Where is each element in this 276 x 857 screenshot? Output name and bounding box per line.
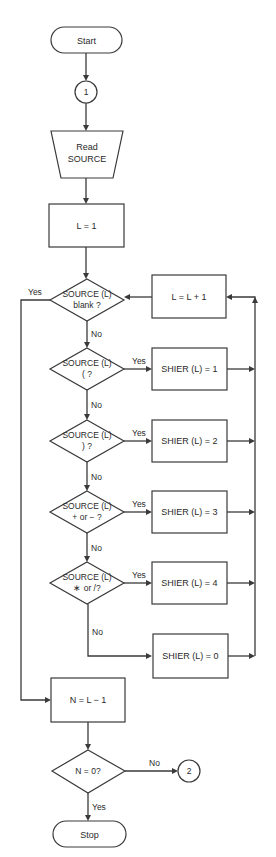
decision-plus-minus-line1: SOURCE (L) xyxy=(62,501,111,511)
init-label: L = 1 xyxy=(77,221,97,231)
decision-blank: SOURCE (L) blank ? xyxy=(50,279,124,321)
no-label-4: No xyxy=(91,543,102,553)
yes-label-3: Yes xyxy=(132,499,146,509)
decision-left-paren: SOURCE (L) ( ? xyxy=(50,348,124,390)
no-label-6: No xyxy=(149,758,160,768)
yes-label-4: Yes xyxy=(132,570,146,580)
decision-left-paren-line2: ( ? xyxy=(82,369,92,379)
read-source-input: Read SOURCE xyxy=(51,131,123,178)
no-label-3: No xyxy=(91,472,102,482)
shier-4-process: SHIER (L) = 4 xyxy=(152,562,227,604)
shier-2-process: SHIER (L) = 2 xyxy=(152,420,227,462)
increment-process: L = L + 1 xyxy=(152,275,226,318)
connector-1: 1 xyxy=(75,81,97,103)
connector-1-label: 1 xyxy=(84,87,89,97)
decision-mul-div-line2: ∗ or /? xyxy=(73,583,101,593)
start-terminal: Start xyxy=(51,27,122,53)
decision-n-zero: N = 0? xyxy=(52,750,125,793)
read-label-line2: SOURCE xyxy=(68,154,107,164)
shier-2-label: SHIER (L) = 2 xyxy=(161,436,217,446)
yes-label-1: Yes xyxy=(132,356,146,366)
no-label-5: No xyxy=(92,627,103,637)
decision-n-zero-label: N = 0? xyxy=(75,766,101,776)
shier-0-process: SHIER (L) = 0 xyxy=(153,634,228,678)
count-label: N = L − 1 xyxy=(70,695,107,705)
decision-mul-div-line1: SOURCE (L) xyxy=(62,572,111,582)
decision-right-paren-line2: ) ? xyxy=(82,441,92,451)
shier-4-label: SHIER (L) = 4 xyxy=(161,578,217,588)
decision-plus-minus: SOURCE (L) + or − ? xyxy=(50,491,124,533)
read-label-line1: Read xyxy=(76,142,98,152)
no-label-2: No xyxy=(91,400,102,410)
yes-label-blank: Yes xyxy=(28,287,42,297)
connector-2-label: 2 xyxy=(187,766,192,776)
shier-3-label: SHIER (L) = 3 xyxy=(161,507,217,517)
count-process: N = L − 1 xyxy=(51,678,125,722)
shier-1-label: SHIER (L) = 1 xyxy=(161,364,217,374)
decision-right-paren: SOURCE (L) ) ? xyxy=(50,420,124,462)
stop-terminal: Stop xyxy=(53,821,126,847)
yes-label-6: Yes xyxy=(92,802,106,812)
flowchart: Start 1 Read SOURCE L = 1 SOURCE (L) bla… xyxy=(0,0,276,857)
decision-plus-minus-line2: + or − ? xyxy=(72,512,102,522)
no-label-1: No xyxy=(91,329,102,339)
increment-label: L = L + 1 xyxy=(172,292,207,302)
shier-1-process: SHIER (L) = 1 xyxy=(152,348,227,390)
decision-mul-div: SOURCE (L) ∗ or /? xyxy=(50,562,124,604)
shier-0-label: SHIER (L) = 0 xyxy=(162,651,218,661)
stop-label: Stop xyxy=(80,830,99,840)
decision-left-paren-line1: SOURCE (L) xyxy=(62,358,111,368)
connector-2: 2 xyxy=(178,760,200,782)
start-label: Start xyxy=(77,36,97,46)
decision-right-paren-line1: SOURCE (L) xyxy=(62,430,111,440)
shier-3-process: SHIER (L) = 3 xyxy=(152,491,227,533)
decision-blank-line1: SOURCE (L) xyxy=(62,289,111,299)
yes-label-2: Yes xyxy=(132,428,146,438)
decision-blank-line2: blank ? xyxy=(73,300,101,310)
init-process: L = 1 xyxy=(49,204,124,247)
